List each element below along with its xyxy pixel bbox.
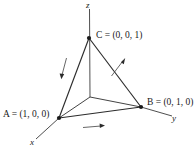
y-axis-line (141, 107, 172, 116)
arrow-C-to-A (60, 58, 67, 79)
edge-C-A (59, 38, 89, 118)
x-axis-label: x (30, 138, 34, 147)
point-label-C: C = (0, 0, 1) (96, 31, 143, 41)
figure-container: C = (0, 0, 1) A = (1, 0, 0) B = (0, 1, 0… (0, 0, 196, 155)
arrow-B-to-C (112, 58, 126, 76)
vertex-dot-A (57, 116, 61, 120)
vertex-dot-B (139, 105, 143, 109)
arrow-A-to-B (83, 124, 105, 128)
diagram-canvas (0, 0, 196, 155)
z-axis-label: z (86, 1, 90, 10)
origin-to-B-line (90, 97, 141, 107)
edge-C-B (89, 38, 141, 107)
x-axis-line (36, 118, 59, 139)
vertex-dot-C (87, 36, 91, 40)
z-axis-line (90, 9, 91, 97)
point-label-A: A = (1, 0, 0) (3, 110, 50, 120)
edge-A-B (59, 107, 141, 118)
point-label-B: B = (0, 1, 0) (147, 98, 194, 108)
y-axis-label: y (172, 114, 176, 123)
